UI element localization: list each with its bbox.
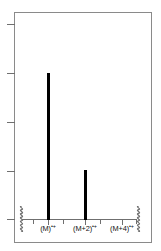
x-tick-m1 xyxy=(63,219,64,224)
axis-break-left-path xyxy=(20,206,22,232)
x-tick-minor-a xyxy=(33,219,34,224)
peak-m xyxy=(47,73,50,220)
x-axis-label-m4-base: (M+4) xyxy=(110,224,129,233)
x-axis-label-m2: (M+2)•+ xyxy=(73,224,97,233)
plot-frame xyxy=(14,12,152,243)
axis-break-left xyxy=(17,206,26,232)
y-tick-3 xyxy=(7,122,15,123)
x-axis-label-m2-superscript: •+ xyxy=(92,223,97,229)
y-tick-2 xyxy=(7,73,15,74)
x-tick-m3 xyxy=(100,219,101,224)
mass-spectrum-figure: (M)•+(M+2)•+(M+4)•+ xyxy=(0,0,161,251)
x-axis-label-m: (M)•+ xyxy=(40,224,56,233)
x-axis-label-m4: (M+4)•+ xyxy=(110,224,134,233)
y-tick-1 xyxy=(7,24,15,25)
x-axis-label-m2-base: (M+2) xyxy=(73,224,92,233)
x-axis-baseline xyxy=(22,219,136,220)
axis-break-right-path xyxy=(137,206,139,232)
x-axis-label-m-base: (M) xyxy=(40,224,51,233)
axis-break-right xyxy=(134,206,143,232)
x-axis-label-m-superscript: •+ xyxy=(51,223,56,229)
y-tick-5 xyxy=(7,219,15,220)
y-tick-4 xyxy=(7,171,15,172)
peak-m2 xyxy=(84,170,87,220)
